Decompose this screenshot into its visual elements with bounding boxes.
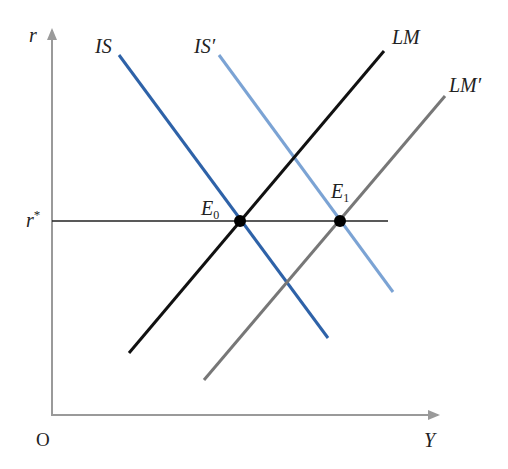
is-label: IS (94, 35, 112, 57)
lm-prime-label: LM′ (448, 74, 482, 96)
x-axis-label: Y (424, 429, 437, 451)
lm-label: LM (391, 26, 421, 48)
equilibrium-e0-dot (234, 215, 246, 227)
y-axis-label: r (29, 24, 37, 46)
e0-label: E0 (200, 197, 219, 222)
is-curve (119, 55, 328, 338)
lm-prime-curve (204, 96, 445, 380)
origin-label: O (36, 429, 50, 450)
diagram-canvas: r Y O r* IS IS′ LM LM′ E0 E1 (0, 0, 508, 469)
is-prime-curve (219, 55, 393, 292)
is-prime-label: IS′ (193, 35, 216, 57)
r-star-label: r* (26, 207, 40, 231)
equilibrium-e1-dot (334, 215, 346, 227)
e1-label: E1 (330, 180, 349, 205)
is-lm-diagram: r Y O r* IS IS′ LM LM′ E0 E1 (0, 0, 508, 469)
